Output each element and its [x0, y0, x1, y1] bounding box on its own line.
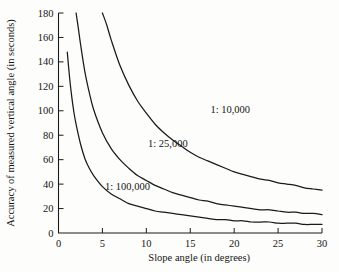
accuracy-vs-slope-angle-chart: 051015202530 020406080100120140160180 1:… [0, 0, 339, 272]
x-tick-label: 15 [185, 238, 196, 249]
y-tick-label: 160 [38, 32, 54, 43]
y-tick-label: 180 [38, 8, 54, 19]
y-tick-label: 100 [38, 105, 54, 116]
curve-labels: 1: 10,0001: 25,0001: 100,000 [105, 104, 250, 192]
x-tick-label: 20 [229, 238, 240, 249]
x-tick-label: 30 [317, 238, 328, 249]
curve-label: 1: 25,000 [148, 138, 188, 149]
y-tick-label: 20 [43, 203, 54, 214]
data-curves [67, 13, 322, 225]
x-tick-label: 5 [100, 238, 105, 249]
data-curve [102, 13, 322, 190]
curve-label: 1: 100,000 [105, 181, 150, 192]
y-tick-label: 40 [43, 179, 54, 190]
x-tick-labels: 051015202530 [56, 238, 327, 249]
x-tick-label: 10 [141, 238, 152, 249]
curve-label: 1: 10,000 [210, 104, 250, 115]
x-tick-label: 0 [56, 238, 61, 249]
y-axis-title: Accuracy of measured vertical angle (in … [5, 19, 17, 227]
y-tick-label: 60 [43, 154, 54, 165]
y-tick-labels: 020406080100120140160180 [38, 8, 54, 239]
chart-figure: 051015202530 020406080100120140160180 1:… [0, 0, 339, 272]
y-tick-label: 120 [38, 81, 54, 92]
x-tick-label: 25 [273, 238, 284, 249]
x-axis-title: Slope angle (in degrees) [148, 252, 250, 264]
y-tick-label: 80 [43, 130, 54, 141]
y-tick-label: 140 [38, 56, 54, 67]
y-tick-label: 0 [48, 228, 53, 239]
